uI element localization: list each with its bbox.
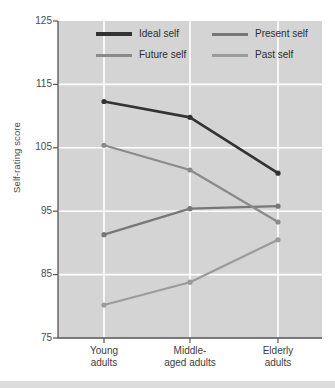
- legend-item-present-self[interactable]: Present self: [212, 29, 308, 39]
- x-axis-tick-label-line: Young: [54, 345, 154, 357]
- y-axis-tick-label: 85: [26, 269, 52, 279]
- data-point-present-self: [275, 204, 280, 209]
- y-axis-tick-label: 105: [26, 142, 52, 152]
- x-axis-tick-label-line: aged adults: [140, 357, 240, 369]
- data-point-ideal-self: [275, 171, 280, 176]
- y-axis-title: Self-rating score: [11, 108, 22, 208]
- data-point-present-self: [187, 206, 192, 211]
- y-axis-tick-labels: 125115105958575: [22, 0, 52, 388]
- legend-swatch-icon: [212, 54, 248, 57]
- x-axis-tick-label-line: adults: [228, 357, 328, 369]
- data-point-past-self: [275, 237, 280, 242]
- legend-label: Present self: [255, 29, 308, 39]
- x-axis-tick-label: Elderlyadults: [228, 345, 328, 368]
- data-point-ideal-self: [101, 99, 106, 104]
- legend-swatch-icon: [96, 54, 132, 57]
- legend-label: Future self: [139, 50, 186, 60]
- legend-label: Ideal self: [139, 29, 179, 39]
- y-axis-tick-label: 75: [26, 333, 52, 343]
- legend-swatch-icon: [212, 33, 248, 36]
- data-point-future-self: [101, 143, 106, 148]
- x-axis-tick-label-line: Elderly: [228, 345, 328, 357]
- legend-item-past-self[interactable]: Past self: [212, 50, 293, 60]
- chart-figure: Self-rating score 125115105958575 Younga…: [0, 0, 335, 388]
- x-axis-tick-label: Youngadults: [54, 345, 154, 368]
- y-axis-tick-label: 125: [26, 16, 52, 26]
- data-point-present-self: [101, 232, 106, 237]
- legend-label: Past self: [255, 50, 293, 60]
- x-axis-tick-label-line: adults: [54, 357, 154, 369]
- legend-item-ideal-self[interactable]: Ideal self: [96, 29, 179, 39]
- bottom-band: [0, 381, 335, 388]
- legend-item-future-self[interactable]: Future self: [96, 50, 186, 60]
- legend-swatch-icon: [96, 32, 132, 35]
- data-point-ideal-self: [187, 115, 192, 120]
- y-axis-tick-label: 95: [26, 206, 52, 216]
- y-axis-tick-label: 115: [26, 79, 52, 89]
- chart-legend: Ideal selfPresent selfFuture selfPast se…: [96, 29, 320, 67]
- data-point-future-self: [275, 219, 280, 224]
- data-point-past-self: [187, 280, 192, 285]
- x-axis-tick-label-line: Middle-: [140, 345, 240, 357]
- data-point-past-self: [101, 302, 106, 307]
- data-point-future-self: [187, 167, 192, 172]
- x-axis-tick-label: Middle-aged adults: [140, 345, 240, 368]
